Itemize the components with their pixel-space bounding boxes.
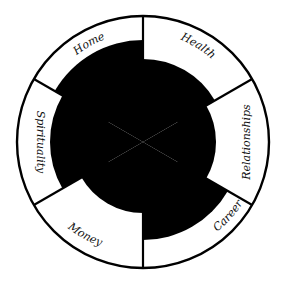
segment-fills [50,40,228,240]
segment-label-health: Health [178,30,218,62]
segment-label-relationships: Relationships [240,104,253,181]
segment-label-spirituality: Spirituality [34,111,47,174]
wheel-of-life-diagram: Health Home Career Money Relationships S… [0,0,285,288]
